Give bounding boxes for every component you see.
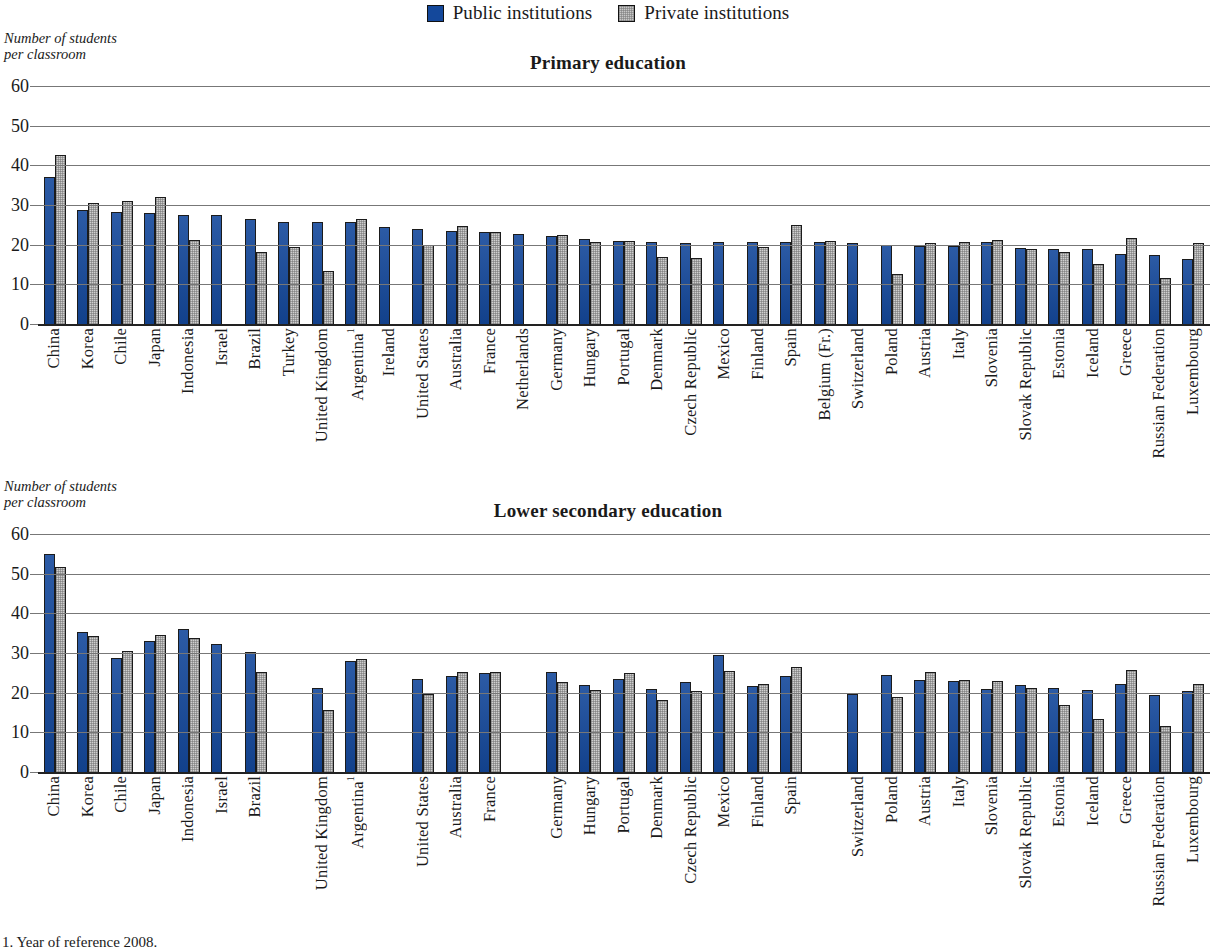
- y-tick-label-10: 10: [11, 274, 38, 295]
- x-label-slot: Austria: [909, 328, 942, 478]
- bar-public: [680, 682, 691, 772]
- x-axis-label: Japan: [147, 776, 164, 815]
- x-axis-label: United States: [415, 776, 432, 867]
- bar-public: [579, 685, 590, 772]
- x-axis-label: Greece: [1118, 328, 1135, 376]
- bar-private: [155, 197, 166, 324]
- x-axis-label: United States: [415, 328, 432, 419]
- x-label-slot: France: [473, 776, 506, 931]
- x-label-slot: Brazil: [239, 776, 272, 931]
- bar-public: [981, 689, 992, 772]
- bar-private: [590, 242, 601, 324]
- bar-private: [959, 242, 970, 324]
- x-label-slot: Australia: [440, 776, 473, 931]
- x-label-slot: Netherlands: [507, 328, 540, 478]
- bar-private: [155, 635, 166, 772]
- x-axis-label: Denmark: [649, 328, 666, 391]
- bar-private: [624, 673, 635, 772]
- bar-public: [111, 212, 122, 324]
- bar-public: [1149, 695, 1160, 772]
- x-axis-label: Portugal: [616, 776, 633, 834]
- x-label-slot: Chile: [105, 328, 138, 478]
- bar-private: [791, 667, 802, 773]
- x-label-slot: Korea: [71, 328, 104, 478]
- bar-private: [457, 672, 468, 772]
- y-tick-label-40: 40: [11, 155, 38, 176]
- x-axis-label: Brazil: [247, 328, 264, 370]
- x-axis-label: Finland: [750, 776, 767, 828]
- bar-private: [557, 682, 568, 772]
- legend-item-private: Private institutions: [618, 2, 789, 24]
- x-label-slot: Indonesia: [172, 776, 205, 931]
- bar-private: [1126, 670, 1137, 772]
- legend-label-private: Private institutions: [644, 2, 789, 24]
- x-axis-label: Estonia: [1051, 776, 1068, 827]
- x-axis-label: Estonia: [1051, 328, 1068, 379]
- x-label-slot: Czech Republic: [674, 328, 707, 478]
- bar-public: [412, 229, 423, 324]
- y-tick-label-50: 50: [11, 563, 38, 584]
- bar-private: [657, 257, 668, 324]
- x-label-slot: Denmark: [641, 328, 674, 478]
- bar-public: [245, 652, 256, 772]
- bar-private: [992, 681, 1003, 772]
- x-axis-label: China: [46, 328, 63, 368]
- bar-public: [245, 219, 256, 325]
- bar-public: [747, 242, 758, 325]
- x-label-slot: Hungary: [574, 776, 607, 931]
- x-axis-label: Chile: [113, 328, 130, 365]
- legend-label-public: Public institutions: [453, 2, 593, 24]
- gridline-10: [38, 732, 1210, 733]
- legend-swatch-private-icon: [618, 5, 635, 22]
- bar-public: [579, 239, 590, 324]
- bar-private: [1059, 705, 1070, 772]
- bar-public: [77, 210, 88, 324]
- bar-public: [646, 242, 657, 324]
- x-label-slot: Luxembourg: [1176, 328, 1209, 478]
- x-label-slot: Iceland: [1076, 776, 1109, 931]
- y-tick-label-20: 20: [11, 234, 38, 255]
- x-axis-label: Italy: [951, 328, 968, 359]
- bar-private: [691, 258, 702, 324]
- x-axis-label: Indonesia: [180, 776, 197, 842]
- bar-public: [713, 655, 724, 772]
- bar-public: [881, 675, 892, 772]
- bar-public: [546, 672, 557, 772]
- bar-private: [88, 636, 99, 772]
- x-axis-label: Portugal: [616, 328, 633, 386]
- bar-public: [613, 241, 624, 324]
- bar-private: [189, 240, 200, 324]
- x-label-slot: Argentina1: [339, 328, 372, 478]
- y-tick-label-20: 20: [11, 682, 38, 703]
- bar-public: [1115, 684, 1126, 772]
- x-axis-label: Denmark: [649, 776, 666, 839]
- x-label-slot: Ireland: [373, 776, 406, 931]
- x-label-slot: Iceland: [1076, 328, 1109, 478]
- x-label-slot: United Kingdom: [306, 776, 339, 931]
- bar-public: [479, 232, 490, 324]
- x-label-slot: Switzerland: [842, 328, 875, 478]
- bar-public: [1149, 255, 1160, 324]
- bar-private: [55, 155, 66, 324]
- x-axis-label: United Kingdom: [314, 776, 331, 890]
- gridline-10: [38, 284, 1210, 285]
- x-label-slot: Chile: [105, 776, 138, 931]
- bar-public: [178, 215, 189, 324]
- x-axis-label: Italy: [951, 776, 968, 807]
- x-label-slot: Spain: [775, 776, 808, 931]
- bar-private: [1059, 252, 1070, 324]
- bar-private: [1126, 238, 1137, 324]
- x-axis-label: Netherlands: [515, 328, 532, 410]
- bar-private: [892, 697, 903, 772]
- bar-private: [1193, 684, 1204, 772]
- bar-public: [780, 242, 791, 324]
- x-label-slot: Netherlands: [507, 776, 540, 931]
- x-axis-label: China: [46, 776, 63, 816]
- bar-public: [780, 676, 791, 772]
- x-label-slot: Belgium (Fr.): [808, 776, 841, 931]
- x-label-slot: Indonesia: [172, 328, 205, 478]
- gridline-0: [38, 772, 1210, 774]
- x-label-slot: Japan: [138, 776, 171, 931]
- x-label-slot: United States: [406, 776, 439, 931]
- x-label-slot: Finland: [741, 328, 774, 478]
